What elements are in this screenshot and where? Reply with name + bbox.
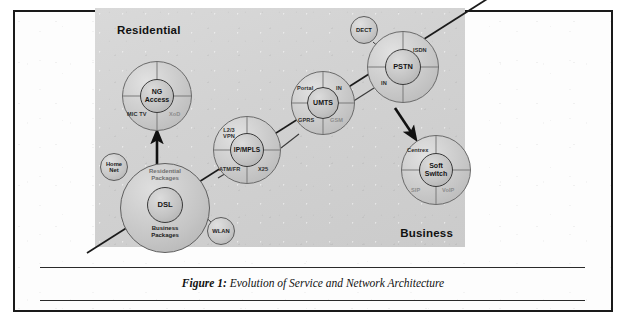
- dsl-hub-label: DSL: [157, 201, 172, 209]
- label-voip: VoIP: [442, 187, 454, 193]
- caption-rule-bottom: [40, 300, 585, 301]
- residential-label: Residential: [117, 24, 181, 36]
- label-mic-tv: MIC TV: [127, 111, 147, 117]
- ip-mpls-hub-label: IP/MPLS: [234, 146, 260, 153]
- soft-switch-hub[interactable]: Soft Switch: [419, 153, 453, 187]
- caption-rule-top: [40, 267, 585, 268]
- soft-switch-hub-label: Soft Switch: [420, 162, 452, 177]
- figure-number: Figure 1:: [182, 277, 227, 289]
- arrow-pstn-softswitch: [395, 108, 413, 135]
- label-residential-packages-text: Residential Packages: [149, 168, 181, 181]
- label-gsm: GSM: [330, 117, 343, 123]
- diagram-panel: Residential Business NG Access MIC TV Xo…: [95, 8, 465, 247]
- label-in-pstn: IN: [381, 80, 387, 86]
- label-isdn: ISDN: [413, 47, 427, 53]
- bubble-home-net[interactable]: Home Net: [100, 153, 128, 181]
- figure-page: Residential Business NG Access MIC TV Xo…: [0, 0, 626, 323]
- business-label: Business: [400, 227, 453, 239]
- cluster-pstn[interactable]: PSTN ISDN IN: [367, 31, 439, 103]
- umts-hub-label: UMTS: [313, 99, 333, 107]
- label-centrex: Centrex: [407, 147, 429, 153]
- label-residential-packages: Residential Packages: [134, 168, 196, 182]
- ng-access-hub[interactable]: NG Access: [140, 79, 174, 113]
- cluster-ip-mpls[interactable]: IP/MPLS L2/3 VPN ATM/FR X25: [213, 116, 281, 184]
- label-portal: Portal: [297, 85, 313, 91]
- cluster-ng-access[interactable]: NG Access MIC TV XoD: [122, 61, 192, 131]
- label-in-umts: IN: [336, 85, 342, 91]
- label-business-packages-text: Business Packages: [151, 225, 179, 238]
- bubble-wlan[interactable]: WLAN: [207, 217, 235, 245]
- cluster-soft-switch[interactable]: Soft Switch Centrex SIP VoIP: [401, 135, 471, 205]
- label-atm-fr: ATM/FR: [219, 166, 240, 172]
- pstn-hub-label: PSTN: [393, 63, 413, 71]
- label-x25: X25: [258, 166, 268, 172]
- figure-caption-text: Evolution of Service and Network Archite…: [230, 277, 445, 289]
- label-xod: XoD: [169, 111, 181, 117]
- label-gprs: GPRS: [298, 117, 314, 123]
- bubble-dect-label: DECT: [356, 27, 372, 33]
- ng-access-hub-label: NG Access: [141, 88, 173, 103]
- bubble-wlan-label: WLAN: [212, 228, 229, 234]
- bubble-dect[interactable]: DECT: [350, 16, 378, 44]
- connector-ipmpls-umts: [281, 134, 299, 148]
- cluster-dsl[interactable]: DSL Residential Packages Business Packag…: [120, 163, 210, 253]
- label-sip: SIP: [411, 187, 420, 193]
- dsl-hub[interactable]: DSL: [147, 187, 183, 223]
- label-business-packages: Business Packages: [134, 225, 196, 239]
- pstn-hub[interactable]: PSTN: [385, 49, 421, 85]
- label-l23-vpn-text: L2/3 VPN: [223, 127, 235, 139]
- cluster-umts[interactable]: UMTS Portal IN GPRS GSM: [291, 71, 355, 135]
- figure-caption: Figure 1: Evolution of Service and Netwo…: [0, 277, 626, 289]
- label-l23-vpn: L2/3 VPN: [218, 127, 240, 140]
- bubble-home-net-label: Home Net: [106, 161, 122, 174]
- umts-hub[interactable]: UMTS: [307, 87, 339, 119]
